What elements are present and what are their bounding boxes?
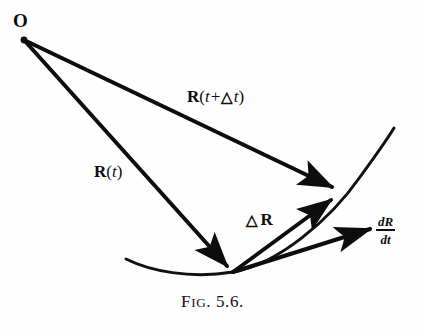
- label-argument-t: t: [205, 87, 210, 106]
- label-vector-symbol-r: R: [94, 162, 106, 181]
- label-close-paren: ): [239, 87, 245, 106]
- vector-diagram-svg: [0, 0, 425, 333]
- label-derivative-dr-dt: dR dt: [376, 215, 395, 246]
- label-vector-r-t-plus-delta-t: R(t+△t): [187, 88, 244, 105]
- label-plus-sign: +: [210, 87, 222, 106]
- vector-r-t-plus-delta-t: [24, 40, 332, 187]
- label-origin-o: O: [13, 11, 28, 30]
- fraction-bar: [376, 229, 395, 231]
- label-vector-r-t: R(t): [94, 163, 122, 180]
- label-vector-delta-r: △R: [246, 211, 273, 228]
- label-close-paren: ): [117, 162, 123, 181]
- label-vector-symbol-r: R: [187, 87, 199, 106]
- fraction-denominator: dt: [376, 232, 395, 246]
- figure-container: O R(t+△t) R(t) △R dR dt FIG. 5.6.: [0, 0, 425, 333]
- label-vector-symbol-r: R: [259, 210, 273, 229]
- caption-number: . 5.6.: [206, 292, 244, 311]
- vector-r-t: [24, 40, 227, 266]
- vector-derivative-dr-dt: [233, 229, 370, 272]
- label-delta-triangle-icon: △: [221, 89, 234, 105]
- origin-dot: [21, 37, 28, 44]
- fraction-numerator: dR: [376, 215, 395, 229]
- caption-smallcaps: IG: [191, 295, 206, 310]
- label-delta-triangle-icon: △: [246, 212, 259, 228]
- caption-prefix: F: [181, 292, 191, 311]
- fraction: dR dt: [376, 215, 395, 246]
- figure-caption: FIG. 5.6.: [0, 292, 425, 312]
